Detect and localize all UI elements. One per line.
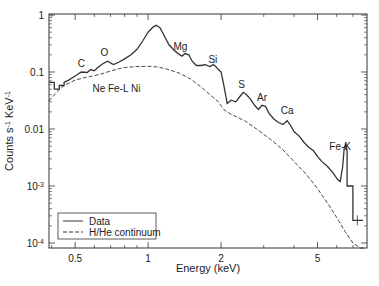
line-annotations: CONe Fe-L NiMgSiSArCaFe-K [78, 41, 352, 152]
y-tick-label: 10-4 [27, 238, 44, 250]
line-label: Ar [257, 92, 268, 103]
y-tick-label: 0.1 [30, 67, 44, 78]
legend-data-label: Data [89, 216, 111, 227]
x-axis-label: Energy (keV) [176, 262, 240, 274]
y-tick-label: 0.01 [25, 124, 45, 135]
x-tick-label: 5 [315, 253, 321, 264]
x-tick-label: 1 [145, 253, 151, 264]
line-label: Ca [281, 105, 294, 116]
line-label: Mg [174, 41, 188, 52]
y-tick-label: 10-3 [27, 181, 44, 193]
y-tick-label: 1 [38, 10, 44, 21]
line-label: Si [208, 54, 217, 65]
x-tick-label: 0.5 [68, 253, 82, 264]
line-label: Fe-K [329, 141, 351, 152]
line-label: S [238, 79, 245, 90]
line-label: O [100, 47, 108, 58]
line-label: Ne Fe-L Ni [92, 83, 140, 94]
line-label: C [78, 58, 85, 69]
spectrum-chart: 0.5125 10.10.0110-310-4 CONe Fe-L NiMgSi… [0, 0, 379, 286]
y-axis-label: Counts s-1 KeV-1 [3, 91, 15, 171]
legend: Data H/He continuum [58, 213, 161, 239]
legend-continuum-label: H/He continuum [89, 227, 161, 238]
data-spectrum-line [49, 25, 363, 220]
